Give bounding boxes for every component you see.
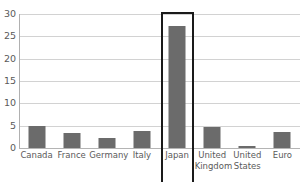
- bar-slot-italy: [124, 14, 159, 148]
- x-tick-label-france: France: [54, 150, 89, 161]
- bar-germany: [98, 138, 115, 148]
- bar-slot-germany: [89, 14, 124, 148]
- y-tick-label-5: 5: [0, 121, 16, 131]
- bar-euro: [274, 132, 291, 148]
- bar-italy: [133, 131, 150, 148]
- y-tick-label-10: 10: [0, 99, 16, 109]
- x-tick-label-line: United: [198, 150, 226, 160]
- x-tick-label-euro: Euro: [265, 150, 300, 161]
- x-tick-label-line: Germany: [89, 150, 128, 160]
- x-tick-label-line: States: [230, 161, 265, 172]
- y-axis-labels: 051015202530: [0, 0, 16, 182]
- x-tick-label-line: Euro: [273, 150, 292, 160]
- x-tick-label-germany: Germany: [89, 150, 124, 161]
- y-tick-label-30: 30: [0, 9, 16, 19]
- x-axis-labels: CanadaFranceGermanyItalyJapanUnitedKingd…: [19, 150, 300, 182]
- bar-united-kingdom: [204, 127, 221, 148]
- bar-slot-france: [54, 14, 89, 148]
- x-tick-label-italy: Italy: [124, 150, 159, 161]
- y-tick-label-0: 0: [0, 143, 16, 153]
- y-tick-label-15: 15: [0, 76, 16, 86]
- bar-slot-japan: [160, 14, 195, 148]
- x-tick-label-united-states: UnitedStates: [230, 150, 265, 171]
- bar-japan: [169, 26, 186, 148]
- gridline-0: [19, 148, 300, 149]
- x-tick-label-line: Japan: [165, 150, 189, 160]
- x-tick-label-line: United: [233, 150, 261, 160]
- bar-slot-euro: [265, 14, 300, 148]
- x-tick-label-japan: Japan: [160, 150, 195, 161]
- bars-layer: [19, 14, 300, 148]
- bar-slot-united-states: [230, 14, 265, 148]
- bar-canada: [28, 126, 45, 148]
- bar-chart: 051015202530 CanadaFranceGermanyItalyJap…: [0, 0, 302, 182]
- bar-slot-canada: [19, 14, 54, 148]
- x-tick-label-united-kingdom: UnitedKingdom: [195, 150, 230, 171]
- y-tick-label-25: 25: [0, 32, 16, 42]
- bar-united-states: [239, 146, 256, 148]
- bar-france: [63, 133, 80, 148]
- plot-area: [19, 14, 300, 148]
- x-tick-label-line: Italy: [133, 150, 151, 160]
- bar-slot-united-kingdom: [195, 14, 230, 148]
- x-tick-label-line: Kingdom: [195, 161, 230, 172]
- y-tick-label-20: 20: [0, 54, 16, 64]
- x-tick-label-line: France: [58, 150, 86, 160]
- x-tick-label-canada: Canada: [19, 150, 54, 161]
- x-tick-label-line: Canada: [20, 150, 52, 160]
